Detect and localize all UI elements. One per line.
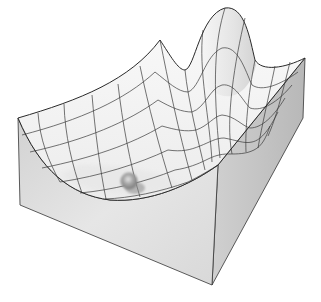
peak [200,8,256,96]
potential-surface-figure: 3D wireframe potential energy surface wi… [0,0,321,302]
